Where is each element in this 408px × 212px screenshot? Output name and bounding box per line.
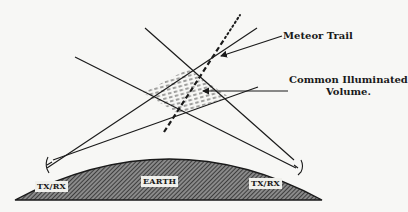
meteor-trail-dotted-extension [225,15,240,38]
meteor-trail-label: Meteor Trail [283,30,353,42]
common-volume-label-line1: Common Illuminated [289,74,408,86]
common-volume-label: Common Illuminated Volume. [289,74,408,97]
right-station-label: TX/RX [249,178,282,189]
common-volume-label-line2: Volume. [289,86,408,98]
earth-label: EARTH [141,176,178,187]
left-station-label: TX/RX [35,181,68,192]
